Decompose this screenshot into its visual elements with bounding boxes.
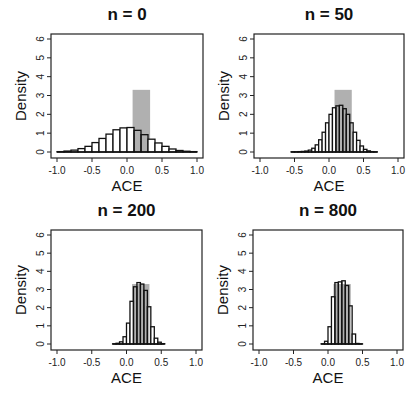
y-axis-label: Density	[214, 250, 232, 330]
histogram-bar	[92, 143, 99, 152]
x-axis-label: ACE	[51, 177, 203, 194]
histogram-plot: -1.0-0.50.00.51.00123456	[253, 230, 403, 370]
x-tick-label: 1.0	[190, 165, 204, 176]
panel-title: n = 50	[254, 5, 404, 25]
y-tick-label: 5	[238, 55, 249, 61]
histogram-bar	[155, 143, 162, 152]
histogram-bar	[113, 130, 120, 152]
panel-title: n = 200	[51, 201, 202, 221]
y-tick-label: 4	[35, 73, 46, 79]
histogram-bar	[120, 128, 127, 152]
x-tick-label: 0.0	[120, 357, 134, 368]
y-tick-label: 5	[35, 250, 46, 256]
x-tick-label: -0.5	[83, 165, 101, 176]
y-tick-label: 6	[238, 36, 249, 42]
histogram-bar	[148, 139, 155, 152]
y-tick-label: 0	[35, 341, 46, 347]
x-tick-label: 0.0	[322, 165, 336, 176]
x-tick-label: -0.5	[286, 165, 304, 176]
y-axis-label: Density	[12, 56, 30, 136]
y-tick-label: 2	[237, 304, 248, 310]
y-tick-label: 6	[237, 232, 248, 238]
histogram-plot: -1.0-0.50.00.51.00123456	[51, 34, 203, 178]
x-tick-label: 1.0	[391, 165, 405, 176]
y-tick-label: 2	[238, 111, 249, 117]
y-tick-label: 1	[35, 323, 46, 329]
x-axis-label: ACE	[254, 177, 404, 194]
y-tick-label: 3	[238, 92, 249, 98]
histogram-bar	[99, 138, 106, 152]
histogram-bar	[106, 134, 113, 152]
histogram-bar	[127, 128, 134, 152]
histogram-panel: -1.0-0.50.00.51.00123456	[254, 34, 404, 158]
x-tick-label: -1.0	[48, 165, 66, 176]
y-tick-label: 2	[35, 304, 46, 310]
y-tick-label: 3	[35, 92, 46, 98]
y-tick-label: 1	[238, 130, 249, 136]
x-tick-label: 1.0	[390, 357, 404, 368]
y-tick-label: 0	[238, 149, 249, 155]
x-tick-label: 0.0	[120, 165, 134, 176]
histogram-bar	[85, 146, 92, 152]
y-tick-label: 0	[35, 149, 46, 155]
histogram-plot: -1.0-0.50.00.51.00123456	[51, 230, 202, 370]
x-tick-label: 0.5	[155, 165, 169, 176]
histogram-bar	[162, 146, 169, 152]
x-tick-label: -1.0	[250, 357, 268, 368]
y-tick-label: 3	[237, 286, 248, 292]
y-tick-label: 1	[35, 130, 46, 136]
y-axis-label: Density	[215, 56, 233, 136]
y-tick-label: 1	[237, 323, 248, 329]
x-tick-label: -0.5	[83, 357, 101, 368]
x-tick-label: 0.5	[357, 165, 371, 176]
histogram-panel: -1.0-0.50.00.51.00123456	[253, 230, 403, 350]
x-tick-label: -0.5	[285, 357, 303, 368]
histogram-bar	[352, 334, 355, 344]
histogram-bar	[134, 130, 141, 152]
histogram-plot: -1.0-0.50.00.51.00123456	[254, 34, 404, 178]
x-tick-label: 0.0	[321, 357, 335, 368]
x-tick-label: -1.0	[251, 165, 269, 176]
x-tick-label: 0.5	[356, 357, 370, 368]
y-tick-label: 6	[35, 232, 46, 238]
histogram-bar	[141, 135, 148, 152]
y-tick-label: 4	[237, 268, 248, 274]
x-tick-label: -1.0	[48, 357, 66, 368]
x-axis-label: ACE	[51, 369, 202, 386]
y-tick-label: 0	[237, 341, 248, 347]
y-tick-label: 4	[238, 73, 249, 79]
y-tick-label: 5	[35, 55, 46, 61]
panel-title: n = 800	[253, 201, 403, 221]
y-tick-label: 5	[237, 250, 248, 256]
x-tick-label: 0.5	[154, 357, 168, 368]
histogram-panel: -1.0-0.50.00.51.00123456	[51, 230, 202, 350]
y-tick-label: 6	[35, 36, 46, 42]
y-axis-label: Density	[12, 250, 30, 330]
y-tick-label: 3	[35, 286, 46, 292]
histogram-panel: -1.0-0.50.00.51.00123456	[51, 34, 203, 158]
panel-title: n = 0	[51, 5, 203, 25]
x-tick-label: 1.0	[189, 357, 203, 368]
x-axis-label: ACE	[253, 369, 403, 386]
y-tick-label: 2	[35, 111, 46, 117]
y-tick-label: 4	[35, 268, 46, 274]
